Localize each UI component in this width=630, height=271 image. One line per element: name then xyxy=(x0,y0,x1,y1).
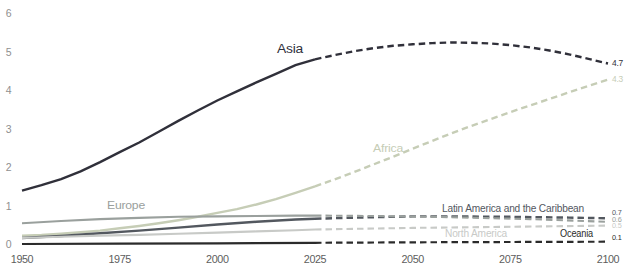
y-tick-label: 5 xyxy=(6,46,12,58)
series-labels-layer: Asia Africa Latin America and the Caribb… xyxy=(107,42,624,242)
series-line-africa-projected xyxy=(315,80,608,187)
series-line-oceania-projected xyxy=(315,242,608,243)
x-tick-label: 2050 xyxy=(401,253,424,265)
y-tick-label: 0 xyxy=(6,238,12,250)
y-tick-label: 6 xyxy=(6,7,12,19)
series-label-oceania: Oceania xyxy=(560,227,594,239)
series-label-asia: Asia xyxy=(277,42,304,56)
end-value-oceania: 0.1 xyxy=(612,233,622,242)
x-tick-label: 2100 xyxy=(597,253,620,265)
series-label-latin-america: Latin America and the Caribbean xyxy=(442,202,584,214)
series-label-north-america: North America xyxy=(445,227,508,239)
series-line-asia-observed xyxy=(22,59,315,190)
end-value-asia: 4.7 xyxy=(612,58,624,68)
population-projection-chart: 01234561950197520002025205020752100 Asia… xyxy=(0,0,630,271)
x-tick-label: 2000 xyxy=(206,253,229,265)
x-tick-label: 2075 xyxy=(499,253,522,265)
end-value-north-america: 0.5 xyxy=(612,221,622,230)
x-tick-label: 2025 xyxy=(304,253,327,265)
series-label-europe: Europe xyxy=(107,199,145,211)
y-tick-label: 4 xyxy=(6,84,12,96)
x-tick-label: 1950 xyxy=(11,253,34,265)
y-tick-label: 1 xyxy=(6,200,12,212)
series-label-africa: Africa xyxy=(373,142,404,154)
chart-canvas: 01234561950197520002025205020752100 Asia… xyxy=(0,0,630,271)
series-line-asia-projected xyxy=(315,42,608,63)
series-line-oceania-observed xyxy=(22,243,315,244)
x-tick-label: 1975 xyxy=(108,253,131,265)
y-tick-label: 2 xyxy=(6,161,12,173)
end-value-africa: 4.3 xyxy=(612,74,624,84)
y-tick-label: 3 xyxy=(6,123,12,135)
